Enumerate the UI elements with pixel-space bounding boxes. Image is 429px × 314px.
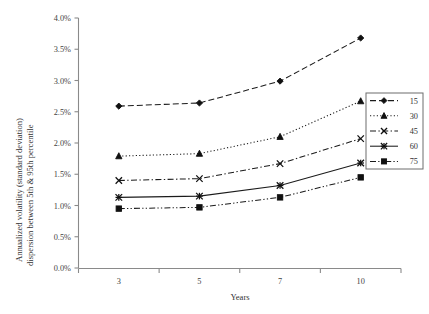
y-axis-title-line2: dispersion between 5th & 95th percentile <box>25 124 35 266</box>
y-tick-label: 4.0% <box>54 14 71 23</box>
marker-asterisk <box>196 193 203 200</box>
y-tick-label: 3.0% <box>54 77 71 86</box>
x-tick-label: 3 <box>117 277 121 286</box>
legend-label-60: 60 <box>410 142 418 151</box>
x-tick-label: 5 <box>197 277 201 286</box>
marker-asterisk <box>357 160 364 167</box>
series-line-45 <box>119 139 361 181</box>
marker-square <box>358 175 363 180</box>
legend-label-75: 75 <box>410 157 418 166</box>
marker-asterisk <box>277 182 284 189</box>
y-tick-label: 1.0% <box>54 202 71 211</box>
y-axis-title-line1: Annualized volatility (standard deviatio… <box>14 118 24 262</box>
volatility-line-chart: Annualized volatility (standard deviatio… <box>0 0 429 314</box>
marker-diamond <box>196 100 202 106</box>
y-tick-label: 2.0% <box>54 139 71 148</box>
legend-label-45: 45 <box>410 127 418 136</box>
y-tick-label: 0.5% <box>54 233 71 242</box>
x-tick-label: 10 <box>357 277 365 286</box>
series-line-60 <box>119 163 361 197</box>
x-axis-title: Years <box>230 292 250 302</box>
x-axis-labels: 35710 <box>117 277 365 286</box>
marker-diamond <box>277 78 283 84</box>
series-layer <box>116 35 364 211</box>
y-axis-title: Annualized volatility (standard deviatio… <box>14 118 35 266</box>
legend-label-15: 15 <box>410 97 418 106</box>
marker-triangle <box>277 133 283 139</box>
marker-asterisk <box>381 143 387 149</box>
marker-square <box>381 159 386 164</box>
chart-container: Annualized volatility (standard deviatio… <box>0 0 429 314</box>
series-45 <box>116 135 364 183</box>
marker-square <box>277 195 282 200</box>
series-line-15 <box>119 38 361 106</box>
marker-triangle <box>116 153 122 159</box>
marker-triangle <box>358 98 364 104</box>
y-tick-label: 1.5% <box>54 170 71 179</box>
series-15 <box>116 35 364 109</box>
y-tick-label: 2.5% <box>54 108 71 117</box>
marker-cross <box>357 135 363 141</box>
legend-label-30: 30 <box>410 112 418 121</box>
marker-asterisk <box>116 194 123 201</box>
marker-diamond <box>358 35 364 41</box>
series-line-75 <box>119 177 361 208</box>
marker-diamond <box>116 103 122 109</box>
chart-legend: 1530456075 <box>366 93 423 169</box>
x-axis-ticks <box>79 269 402 274</box>
y-tick-label: 3.5% <box>54 45 71 54</box>
marker-square <box>197 205 202 210</box>
series-line-30 <box>119 101 361 156</box>
x-tick-label: 7 <box>278 277 282 286</box>
y-axis-ticks: 0.0%0.5%1.0%1.5%2.0%2.5%3.0%3.5%4.0% <box>54 14 79 273</box>
marker-square <box>116 206 121 211</box>
y-tick-label: 0.0% <box>54 264 71 273</box>
series-75 <box>116 175 363 212</box>
